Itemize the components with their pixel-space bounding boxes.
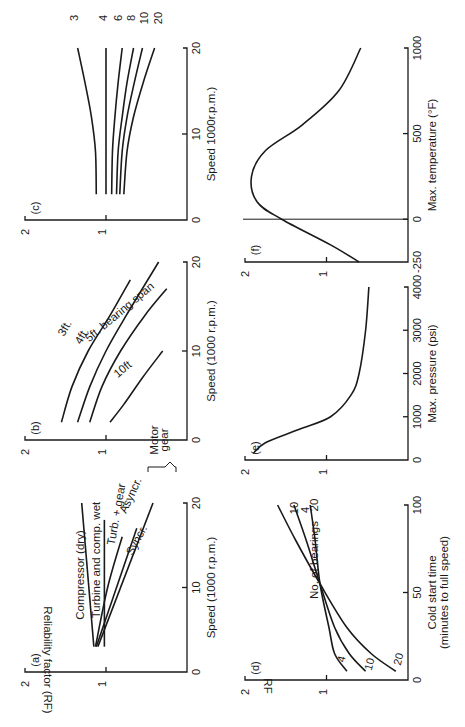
x-tick-label: 0	[190, 217, 202, 223]
series-line	[110, 351, 163, 422]
y-tick-label: 2	[19, 229, 31, 235]
axes	[245, 287, 408, 460]
legend-title: No. of bearings	[308, 521, 320, 599]
series-label: 20	[152, 12, 164, 24]
series-label: 20	[391, 651, 406, 666]
series-label: 4	[97, 15, 109, 21]
x-tick-label: 10	[190, 345, 202, 357]
y-axis-title: RF	[262, 678, 274, 693]
axes	[245, 505, 408, 680]
series-label: 4	[299, 507, 311, 513]
x-axis-label: Speed 1000r.p.m.)	[205, 87, 217, 182]
x-axis-label: Cold start time	[426, 555, 438, 629]
series-label: Compressor (dry)	[74, 530, 86, 620]
x-tick-label: -250	[411, 251, 423, 273]
series-line	[124, 48, 155, 194]
panel-label: (d)	[249, 661, 261, 674]
y-tick-label: 1	[317, 271, 329, 277]
series-line	[253, 287, 369, 454]
series-label: 8	[125, 15, 137, 21]
x-tick-label: 10	[190, 128, 202, 140]
x-tick-label: 4000	[411, 275, 423, 299]
x-tick-label: 20	[190, 42, 202, 54]
series-line	[251, 48, 361, 262]
series-label: 3	[68, 15, 80, 21]
y-tick-label: 2	[239, 689, 251, 695]
annotation-label: gear	[158, 428, 170, 451]
y-tick-label: 2	[239, 271, 251, 277]
series-label: 10	[138, 12, 150, 24]
y-axis-title: Reliability factor (RF)	[42, 606, 54, 714]
x-tick-label: 2000	[411, 361, 423, 385]
panel-label: (c)	[29, 202, 41, 215]
series-label: 5ft. bearing span	[83, 280, 156, 344]
panel-label: (b)	[29, 421, 41, 434]
x-tick-label: 20	[190, 497, 202, 509]
y-tick-label: 2	[19, 681, 31, 687]
x-tick-label: 0	[411, 216, 423, 222]
panel-c	[25, 48, 187, 220]
x-tick-label: 3000	[411, 318, 423, 342]
series-line	[294, 505, 366, 671]
x-tick-label: 10	[190, 581, 202, 593]
x-tick-label: 1000	[411, 405, 423, 429]
x-axis-label: (minutes to full speed)	[438, 536, 450, 649]
panel-label: (a)	[29, 653, 41, 666]
y-tick-label: 1	[317, 689, 329, 695]
y-tick-label: 1	[96, 449, 108, 455]
x-axis-label: Max. temperature (°F)	[426, 99, 438, 212]
x-tick-label: 500	[411, 124, 423, 142]
series-line	[120, 48, 143, 194]
y-tick-label: 2	[239, 469, 251, 475]
x-axis-label: Speed (1000 r.p.m.)	[205, 300, 217, 402]
x-tick-label: 20	[190, 256, 202, 268]
brace	[148, 462, 176, 472]
series-line	[98, 503, 153, 647]
y-tick-label: 2	[19, 449, 31, 455]
panel-d	[245, 505, 408, 680]
series-label: 4	[335, 654, 348, 663]
panel-e	[245, 287, 408, 460]
x-tick-label: 1000	[411, 36, 423, 60]
x-tick-label: 50	[411, 586, 423, 598]
x-axis-label: Max. pressure (psi)	[426, 324, 438, 423]
axes	[245, 48, 408, 262]
x-tick-label: 100	[411, 496, 423, 514]
series-label: 6	[112, 15, 124, 21]
panel-f	[243, 48, 408, 262]
series-line	[78, 48, 97, 194]
x-tick-label: 0	[411, 457, 423, 463]
series-label: 10	[362, 656, 377, 671]
reliability-factor-figure: 12(a)01020Speed (1000 r.p.m.)12(b)01020S…	[0, 0, 465, 727]
y-tick-label: 1	[96, 681, 108, 687]
series-label: 3ft.	[55, 318, 73, 338]
series-label: Syncr.	[124, 523, 150, 557]
x-tick-label: 0	[190, 437, 202, 443]
y-tick-label: 1	[317, 469, 329, 475]
panel-label: (f)	[249, 245, 261, 255]
y-tick-label: 1	[96, 229, 108, 235]
panel-label: (e)	[249, 441, 261, 454]
panel-b	[25, 262, 187, 440]
series-label: Turbine and comp. wet	[90, 501, 102, 618]
x-axis-label: Speed (1000 r.p.m.)	[205, 537, 217, 639]
x-tick-label: 0	[411, 677, 423, 683]
series-line	[278, 505, 396, 671]
x-tick-label: 0	[190, 669, 202, 675]
